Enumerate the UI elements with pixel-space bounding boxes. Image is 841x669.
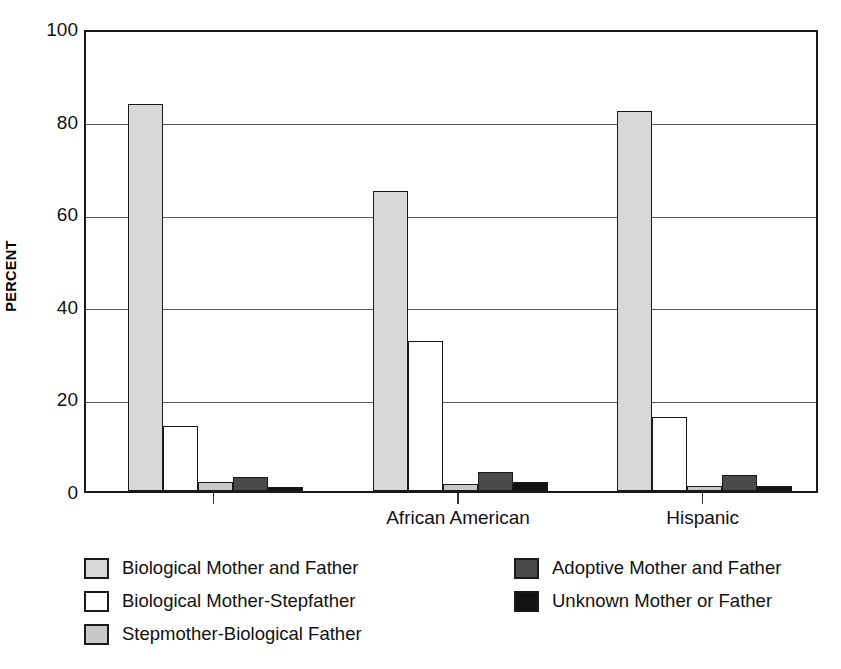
y-axis-tick-label: 0 [6, 483, 78, 502]
bar [687, 486, 722, 491]
bar [163, 426, 198, 491]
bar [443, 484, 478, 491]
y-axis-tick-label: 80 [6, 113, 78, 132]
legend-column-right: Adoptive Mother and FatherUnknown Mother… [514, 553, 781, 619]
y-axis-tick-label: 20 [6, 390, 78, 409]
legend-item: Adoptive Mother and Father [514, 553, 781, 584]
bar [233, 477, 268, 491]
bar [128, 104, 163, 491]
bar [478, 472, 513, 491]
bar [513, 482, 548, 491]
legend-column-left: Biological Mother and FatherBiological M… [84, 553, 362, 652]
x-axis-tick-label: Hispanic [553, 508, 841, 529]
bar [373, 191, 408, 491]
y-axis-tick-label: 100 [6, 20, 78, 39]
bar [408, 341, 443, 491]
legend-label: Stepmother-Biological Father [122, 625, 362, 644]
bar [652, 417, 687, 491]
legend-item: Unknown Mother or Father [514, 586, 781, 617]
legend-swatch-icon [514, 558, 539, 579]
legend-label: Unknown Mother or Father [552, 592, 772, 611]
bar [198, 482, 233, 491]
x-axis-tick [702, 493, 704, 504]
legend-label: Biological Mother-Stepfather [122, 592, 355, 611]
y-axis-tick-label: 60 [6, 205, 78, 224]
bar-chart-figure: PERCENT 020406080100 African AmericanHis… [0, 0, 841, 669]
legend-swatch-icon [84, 591, 109, 612]
bar-group [128, 32, 303, 491]
bar [722, 475, 757, 491]
legend-item: Biological Mother-Stepfather [84, 586, 362, 617]
legend-label: Adoptive Mother and Father [552, 559, 781, 578]
x-axis-tick [457, 493, 459, 504]
bar [268, 487, 303, 491]
bar-group [617, 32, 792, 491]
legend-swatch-icon [84, 558, 109, 579]
x-axis-tick [213, 493, 215, 504]
y-axis-tick-label: 40 [6, 298, 78, 317]
legend-item: Stepmother-Biological Father [84, 619, 362, 650]
bar-group [373, 32, 548, 491]
chart-legend: Biological Mother and FatherBiological M… [84, 553, 824, 653]
plot-area [84, 30, 818, 493]
legend-swatch-icon [514, 591, 539, 612]
plot-inner [86, 32, 816, 491]
y-axis-tick-labels: 020406080100 [0, 30, 78, 493]
legend-swatch-icon [84, 624, 109, 645]
legend-item: Biological Mother and Father [84, 553, 362, 584]
bar [757, 486, 792, 491]
bar [617, 111, 652, 491]
legend-label: Biological Mother and Father [122, 559, 359, 578]
